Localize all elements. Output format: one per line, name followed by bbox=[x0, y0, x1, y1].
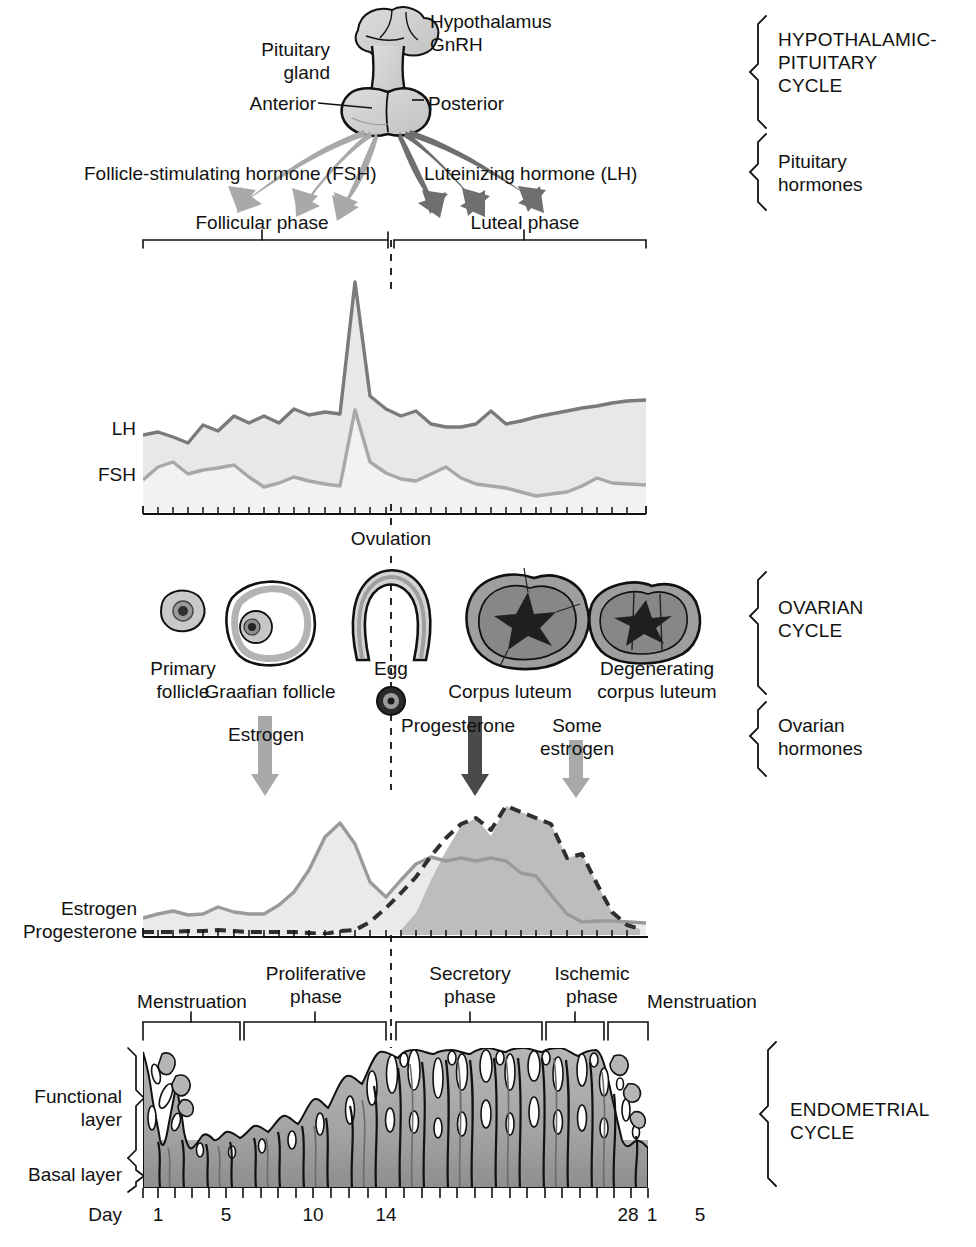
pituitary-gland-label-line2: gland bbox=[284, 61, 331, 84]
ovarian-cycle-label-line1: OVARIAN bbox=[778, 596, 864, 619]
some-estrogen-arrow-label-line2: estrogen bbox=[540, 737, 614, 760]
hypothalamus-label: Hypothalamus bbox=[430, 10, 551, 33]
day-axis-ticks bbox=[143, 1188, 648, 1198]
day-axis-label: Day bbox=[88, 1203, 122, 1226]
graafian-follicle-illustration bbox=[226, 582, 314, 666]
pituitary-hormones-label-line2: hormones bbox=[778, 173, 863, 196]
primary-follicle-label-line2: follicle bbox=[157, 680, 210, 703]
fsh-label: Follicle-stimulating hormone (FSH) bbox=[84, 162, 376, 185]
progesterone-arrow-label: Progesterone bbox=[401, 714, 515, 737]
pituitary-hormones-label-line1: Pituitary bbox=[778, 150, 847, 173]
pituitary-gland-illustration bbox=[318, 7, 438, 136]
day-tick-10: 10 bbox=[302, 1203, 323, 1226]
gnrh-label: GnRH bbox=[430, 33, 483, 56]
menstruation-phase-2-label: Menstruation bbox=[647, 990, 757, 1013]
primary-follicle-illustration bbox=[161, 591, 204, 632]
endometrial-cycle-label-line2: CYCLE bbox=[790, 1121, 854, 1144]
day-tick-1: 1 bbox=[153, 1203, 164, 1226]
degenerating-corpus-luteum-label-line2: corpus luteum bbox=[597, 680, 716, 703]
anterior-label: Anterior bbox=[249, 92, 316, 115]
endometrial-phase-brackets bbox=[143, 1012, 648, 1040]
follicular-phase-label: Follicular phase bbox=[195, 211, 328, 234]
progesterone-series-label: Progesterone bbox=[23, 920, 137, 943]
lh-series-label: LH bbox=[112, 417, 136, 440]
day-tick-5: 5 bbox=[221, 1203, 232, 1226]
degenerating-corpus-luteum-illustration bbox=[589, 583, 700, 664]
lh-label: Luteinizing hormone (LH) bbox=[424, 162, 637, 185]
hypothalamic-pituitary-cycle-label-line3: CYCLE bbox=[778, 74, 842, 97]
hypothalamic-pituitary-cycle-label-line2: PITUITARY bbox=[778, 51, 877, 74]
ischemic-phase-label-line1: Ischemic bbox=[555, 962, 630, 985]
hypothalamic-pituitary-cycle-label-line1: HYPOTHALAMIC- bbox=[778, 28, 937, 51]
basal-layer-label: Basal layer bbox=[28, 1163, 122, 1186]
estrogen-series-label: Estrogen bbox=[61, 897, 137, 920]
degenerating-corpus-luteum-label-line1: Degenerating bbox=[600, 657, 714, 680]
day-tick-28: 28 bbox=[617, 1203, 638, 1226]
secretory-phase-label-line1: Secretory bbox=[429, 962, 510, 985]
ovarian-hormone-chart bbox=[143, 806, 646, 935]
functional-layer-label-line2: layer bbox=[81, 1108, 122, 1131]
ovarian-cycle-label-line2: CYCLE bbox=[778, 619, 842, 642]
graafian-follicle-label: Graafian follicle bbox=[205, 680, 336, 703]
ovarian-hormones-label-line2: hormones bbox=[778, 737, 863, 760]
endometrium-layer-brackets bbox=[128, 1048, 144, 1192]
secretory-phase-label-line2: phase bbox=[444, 985, 496, 1008]
functional-layer-label-line1: Functional bbox=[34, 1085, 122, 1108]
fsh-series-label: FSH bbox=[98, 463, 136, 486]
proliferative-phase-label-line2: phase bbox=[290, 985, 342, 1008]
egg-illustration bbox=[377, 687, 405, 715]
ovulation-label: Ovulation bbox=[351, 527, 431, 550]
day-tick-1-next: 1 bbox=[647, 1203, 658, 1226]
figure-canvas: Hypothalamus GnRH Pituitary gland Anteri… bbox=[0, 0, 976, 1247]
corpus-luteum-label: Corpus luteum bbox=[448, 680, 572, 703]
endometrial-cycle-label-line1: ENDOMETRIAL bbox=[790, 1098, 929, 1121]
pituitary-gland-label-line1: Pituitary bbox=[261, 38, 330, 61]
estrogen-arrow-label: Estrogen bbox=[228, 723, 304, 746]
posterior-label: Posterior bbox=[428, 92, 504, 115]
ovarian-hormones-label-line1: Ovarian bbox=[778, 714, 845, 737]
proliferative-phase-label-line1: Proliferative bbox=[266, 962, 366, 985]
menstruation-phase-1-label: Menstruation bbox=[137, 990, 247, 1013]
luteal-phase-label: Luteal phase bbox=[471, 211, 580, 234]
corpus-luteum-illustration bbox=[467, 568, 589, 669]
day-tick-5-next: 5 bbox=[695, 1203, 706, 1226]
egg-label: Egg bbox=[374, 657, 408, 680]
gonadotropin-chart bbox=[143, 282, 646, 512]
endometrium-illustration bbox=[143, 1048, 648, 1188]
primary-follicle-label-line1: Primary bbox=[150, 657, 215, 680]
some-estrogen-arrow-label-line1: Some bbox=[552, 714, 602, 737]
ischemic-phase-label-line2: phase bbox=[566, 985, 618, 1008]
day-tick-14: 14 bbox=[375, 1203, 396, 1226]
